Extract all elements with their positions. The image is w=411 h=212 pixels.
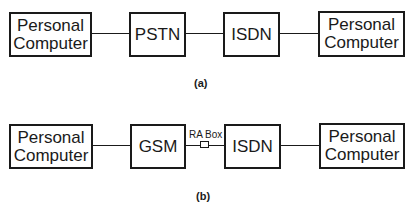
pc-label-line2: Computer <box>14 146 89 165</box>
isdn-box-b: ISDN <box>224 124 281 169</box>
connector-pc-pstn <box>92 33 129 34</box>
ra-box-label: RA Box <box>189 130 222 140</box>
isdn-label: ISDN <box>231 26 272 44</box>
pc-label-line1: Personal <box>328 15 395 34</box>
pstn-label: PSTN <box>135 26 180 44</box>
personal-computer-a-left: PersonalComputer <box>9 12 92 57</box>
connector-pstn-isdn <box>186 33 223 34</box>
pc-label-line1: Personal <box>17 16 84 35</box>
pc-label-line1: Personal <box>17 128 84 147</box>
connector-isdn-pc <box>280 33 318 34</box>
personal-computer-a-right: PersonalComputer <box>318 11 405 57</box>
pstn-box: PSTN <box>129 12 186 57</box>
personal-computer-b-left: PersonalComputer <box>9 124 93 169</box>
connector-ra-isdn <box>209 145 224 146</box>
gsm-box: GSM <box>130 124 186 169</box>
connector-gsm-ra <box>186 145 200 146</box>
pc-label-line2: Computer <box>325 145 400 164</box>
isdn-box-a: ISDN <box>223 12 280 57</box>
ra-box <box>200 141 209 148</box>
personal-computer-b-right: PersonalComputer <box>319 123 405 169</box>
caption-a: (a) <box>194 77 207 89</box>
pc-label-line2: Computer <box>324 33 399 52</box>
gsm-label: GSM <box>139 138 178 156</box>
isdn-label: ISDN <box>232 138 273 156</box>
pc-label-line1: Personal <box>328 127 395 146</box>
caption-b: (b) <box>196 190 210 202</box>
pc-label-line2: Computer <box>13 34 88 53</box>
connector-isdn-pc-b <box>281 145 319 146</box>
connector-pc-gsm <box>93 145 130 146</box>
